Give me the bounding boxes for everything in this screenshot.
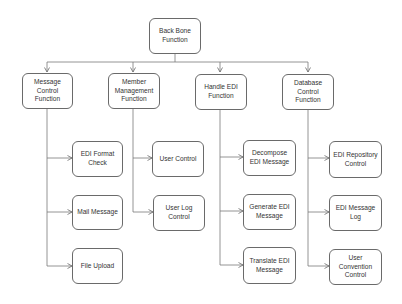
- node-label: Decompose EDI Message: [246, 149, 293, 166]
- node-back-bone-function: Back Bone Function: [149, 18, 201, 54]
- node-user-convention-control: User Convention Control: [329, 249, 382, 285]
- node-label: File Upload: [81, 262, 114, 271]
- node-label: EDI Format Check: [75, 150, 120, 167]
- node-label: EDI Message Log: [332, 204, 379, 221]
- node-label: Translate EDI Message: [246, 257, 293, 274]
- node-user-log-control: User Log Control: [153, 195, 205, 231]
- node-translate-edi-message: Translate EDI Message: [243, 247, 296, 284]
- node-database-control-function: Database Control Function: [282, 74, 334, 110]
- node-mail-message: Mail Message: [72, 195, 123, 230]
- node-handle-edi-function: Handle EDI Function: [195, 74, 247, 110]
- node-edi-format-check: EDI Format Check: [72, 141, 123, 177]
- node-label: Generate EDI Message: [246, 203, 293, 220]
- node-user-control: User Control: [152, 141, 204, 177]
- node-decompose-edi-message: Decompose EDI Message: [243, 140, 296, 176]
- node-label: Back Bone Function: [152, 27, 198, 44]
- node-message-control-function: Message Control Function: [22, 73, 73, 109]
- node-edi-message-log: EDI Message Log: [329, 195, 382, 231]
- node-label: EDI Repository Control: [332, 151, 379, 168]
- node-label: Database Control Function: [285, 79, 331, 105]
- node-file-upload: File Upload: [72, 248, 123, 284]
- node-label: Member Management Function: [111, 78, 157, 104]
- node-generate-edi-message: Generate EDI Message: [243, 194, 296, 230]
- node-edi-repository-control: EDI Repository Control: [329, 141, 382, 178]
- hierarchy-diagram: Back Bone Function Message Control Funct…: [0, 0, 402, 304]
- node-label: Mail Message: [77, 208, 118, 217]
- node-member-management-function: Member Management Function: [108, 73, 160, 109]
- node-label: User Convention Control: [332, 254, 379, 280]
- node-label: User Control: [159, 155, 196, 164]
- node-label: Message Control Function: [25, 78, 70, 104]
- node-label: User Log Control: [156, 204, 202, 221]
- node-label: Handle EDI Function: [198, 83, 244, 100]
